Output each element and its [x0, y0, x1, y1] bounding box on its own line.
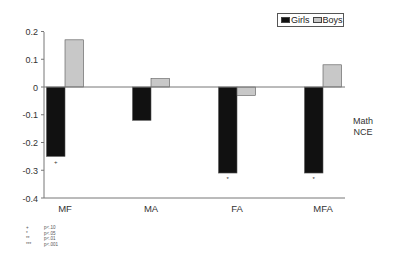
bar-girls-mf — [47, 87, 66, 156]
category-label-mf: MF — [58, 203, 72, 214]
chart-legend: Girls Boys — [277, 13, 344, 27]
y-tick-label: -0.1 — [22, 110, 38, 120]
y-axis-label-line-2: NCE — [353, 127, 373, 138]
y-axis-label-line-1: Math — [353, 116, 373, 127]
y-tick-label: 0 — [33, 83, 38, 93]
bar-boys-mf — [65, 40, 84, 87]
significance-marker: * — [227, 176, 230, 182]
bar-boys-fa — [237, 87, 256, 95]
category-label-fa: FA — [231, 203, 243, 214]
bar-girls-mfa — [305, 87, 324, 173]
category-label-mfa: MFA — [313, 203, 333, 214]
legend-label-boys: Boys — [323, 15, 343, 25]
category-label-ma: MA — [144, 203, 159, 214]
significance-footnote: +p<.10 *p<.05 **p<.01 ***p<.001 — [26, 225, 58, 247]
footnote-row: ***p<.001 — [26, 242, 58, 248]
y-axis-ticks: 0.20.10-0.1-0.2-0.3-0.4 — [22, 27, 44, 204]
significance-marker: + — [54, 159, 58, 165]
significance-marker: * — [313, 176, 316, 182]
y-tick-label: -0.3 — [22, 166, 38, 176]
y-tick-label: 0.2 — [25, 27, 38, 37]
legend-item-girls: Girls — [281, 15, 310, 25]
bars: +** — [47, 40, 342, 182]
legend-swatch-girls — [281, 17, 290, 23]
y-tick-label: -0.2 — [22, 138, 38, 148]
legend-swatch-boys — [313, 17, 322, 23]
legend-label-girls: Girls — [291, 15, 310, 25]
bar-chart: 0.20.10-0.1-0.2-0.3-0.4 +** MFMAFAMFA — [0, 0, 394, 262]
category-labels: MFMAFAMFA — [58, 203, 333, 214]
bar-boys-mfa — [323, 65, 342, 87]
bar-girls-ma — [133, 87, 152, 120]
y-tick-label: -0.4 — [22, 194, 38, 204]
bar-girls-fa — [219, 87, 238, 173]
legend-item-boys: Boys — [313, 15, 343, 25]
footnote-label: p<.001 — [44, 242, 58, 248]
y-tick-label: 0.1 — [25, 55, 38, 65]
y-axis-label: Math NCE — [353, 116, 373, 138]
bar-boys-ma — [151, 79, 170, 87]
footnote-symbol: *** — [26, 242, 44, 248]
